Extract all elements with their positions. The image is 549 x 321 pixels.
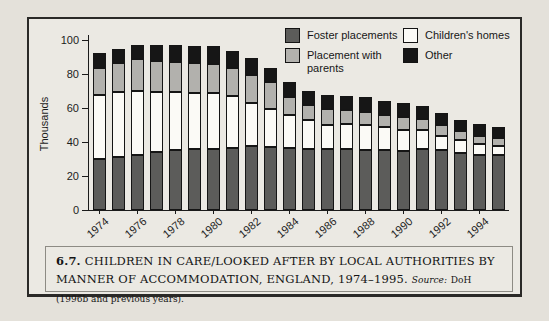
bar-segment-placement-with-parents — [169, 62, 182, 93]
x-axis-tick-label: 1978 — [150, 215, 187, 249]
bar-segment-foster-placements — [454, 153, 467, 210]
bar-segment-placement-with-parents — [416, 119, 429, 130]
bar-segment-foster-placements — [264, 147, 277, 210]
bar-segment-placement-with-parents — [188, 63, 201, 93]
y-axis-tick-label: 60 — [47, 102, 79, 114]
y-axis-line — [88, 35, 89, 211]
bar-segment-foster-placements — [473, 155, 486, 210]
figure-source-label: Source: — [412, 275, 447, 285]
bar-segment-children-s-homes — [93, 95, 106, 159]
x-axis-tick-label: 1984 — [264, 215, 301, 249]
x-axis-tick-label: 1988 — [340, 215, 377, 249]
bar-segment-foster-placements — [93, 159, 106, 210]
bar-segment-children-s-homes — [359, 125, 372, 151]
x-axis-tick-label: 1986 — [302, 215, 339, 249]
y-axis-tick — [82, 108, 88, 109]
bar-segment-placement-with-parents — [378, 115, 391, 128]
legend-swatch-placement-with-parents — [285, 48, 300, 63]
x-axis-tick-label: 1980 — [188, 215, 225, 249]
bar-segment-foster-placements — [207, 149, 220, 210]
bar-segment-placement-with-parents — [207, 64, 220, 93]
bar-segment-foster-placements — [321, 149, 334, 210]
bar-segment-other — [302, 91, 315, 105]
bar-segment-placement-with-parents — [93, 68, 106, 95]
legend-label-other: Other — [425, 48, 453, 62]
y-axis-tick-label: 40 — [47, 136, 79, 148]
bar-segment-other — [93, 53, 106, 67]
legend-item-foster-placements: Foster placements — [285, 28, 397, 43]
bar-segment-other — [150, 45, 163, 61]
x-axis-tick — [213, 211, 214, 214]
bar-segment-foster-placements — [169, 150, 182, 210]
bar-segment-children-s-homes — [435, 136, 448, 150]
x-axis-tick — [327, 211, 328, 214]
y-axis-tick-label: 100 — [47, 34, 79, 46]
bar-segment-other — [283, 82, 296, 97]
figure-number: 6.7. — [56, 254, 81, 268]
bar-segment-other — [112, 49, 125, 63]
bar-segment-other — [397, 103, 410, 117]
bar-segment-other — [454, 120, 467, 131]
bar-segment-placement-with-parents — [283, 97, 296, 115]
bar-segment-placement-with-parents — [321, 109, 334, 125]
y-axis-tick — [82, 210, 88, 211]
y-axis-tick-label: 80 — [47, 68, 79, 80]
bar-segment-placement-with-parents — [492, 138, 505, 146]
bar-segment-other — [245, 58, 258, 75]
bar-segment-children-s-homes — [226, 96, 239, 148]
bar-segment-children-s-homes — [207, 93, 220, 148]
bar-segment-children-s-homes — [321, 125, 334, 150]
bar-segment-children-s-homes — [340, 124, 353, 150]
x-axis-tick — [365, 211, 366, 214]
bar-segment-children-s-homes — [492, 146, 505, 155]
x-axis-tick — [289, 211, 290, 214]
y-axis-tick-label: 20 — [47, 170, 79, 182]
bar-segment-children-s-homes — [454, 140, 467, 153]
bar-segment-other — [321, 95, 334, 109]
bar-segment-children-s-homes — [169, 92, 182, 150]
legend-item-childrens-homes: Children's homes — [403, 28, 510, 43]
bar-segment-other — [131, 45, 144, 59]
legend-item-placement-with-parents: Placement with parents — [285, 48, 403, 74]
bar-segment-placement-with-parents — [454, 131, 467, 140]
legend-swatch-childrens-homes — [403, 28, 418, 43]
legend-item-other: Other — [403, 48, 453, 63]
x-axis-tick-label: 1976 — [112, 215, 149, 249]
bar-segment-foster-placements — [397, 151, 410, 210]
bar-segment-other — [359, 97, 372, 112]
bar-segment-placement-with-parents — [131, 59, 144, 91]
legend-swatch-foster-placements — [285, 28, 300, 43]
bar-segment-foster-placements — [492, 155, 505, 210]
y-axis-tick — [82, 74, 88, 75]
figure-caption: 6.7. CHILDREN IN CARE/LOOKED AFTER BY LO… — [45, 246, 513, 292]
bar-segment-other — [473, 124, 486, 136]
bar-segment-children-s-homes — [473, 144, 486, 154]
y-axis-tick — [82, 40, 88, 41]
bar-segment-other — [169, 45, 182, 61]
bar-segment-foster-placements — [245, 146, 258, 210]
bar-segment-other — [226, 51, 239, 68]
y-axis-tick — [82, 142, 88, 143]
bar-segment-children-s-homes — [416, 130, 429, 150]
bar-segment-foster-placements — [416, 149, 429, 210]
bar-segment-children-s-homes — [245, 103, 258, 146]
bar-segment-foster-placements — [112, 157, 125, 210]
figure-frame: Thousands Foster placements Placement wi… — [27, 17, 522, 297]
bar-segment-placement-with-parents — [359, 112, 372, 125]
y-axis-tick — [82, 176, 88, 177]
bar-segment-foster-placements — [359, 150, 372, 210]
bar-segment-other — [416, 106, 429, 119]
bar-segment-placement-with-parents — [264, 82, 277, 109]
x-axis-tick-label: 1992 — [416, 215, 453, 249]
y-axis-title: Thousands — [38, 74, 52, 174]
x-axis-tick-label: 1982 — [226, 215, 263, 249]
bar-segment-children-s-homes — [397, 130, 410, 151]
x-axis-tick-label: 1994 — [454, 215, 491, 249]
bar-segment-placement-with-parents — [112, 63, 125, 92]
bar-segment-placement-with-parents — [435, 125, 448, 136]
bar-segment-placement-with-parents — [473, 136, 486, 145]
x-axis-tick — [479, 211, 480, 214]
x-axis-tick — [137, 211, 138, 214]
bar-segment-children-s-homes — [302, 120, 315, 148]
x-axis-line — [88, 210, 509, 211]
